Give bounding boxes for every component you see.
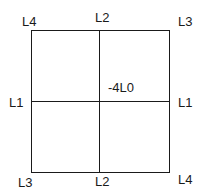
square-bottom-edge (31, 172, 170, 173)
label-center: -4L0 (108, 81, 134, 94)
horizontal-center-line (31, 101, 170, 102)
label-middle-left: L1 (9, 96, 23, 109)
label-bottom-left: L3 (18, 176, 32, 189)
label-bottom-center: L2 (95, 175, 109, 188)
label-top-left: L4 (22, 15, 36, 28)
label-bottom-right: L4 (178, 173, 192, 186)
square-top-edge (31, 30, 170, 31)
label-top-right: L3 (178, 15, 192, 28)
label-top-center: L2 (95, 11, 109, 24)
label-middle-right: L1 (178, 96, 192, 109)
